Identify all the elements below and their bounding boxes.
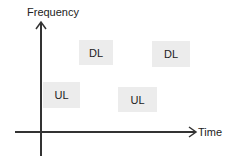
dl-block: DL bbox=[79, 40, 113, 65]
arrow-up-icon bbox=[35, 20, 47, 30]
time-axis bbox=[15, 131, 195, 133]
dl-block: DL bbox=[152, 41, 190, 67]
block-label: UL bbox=[54, 89, 68, 101]
frequency-axis bbox=[40, 22, 42, 156]
block-label: DL bbox=[164, 48, 178, 60]
block-label: DL bbox=[89, 47, 103, 59]
ul-block: UL bbox=[118, 87, 157, 112]
arrow-right-icon bbox=[188, 126, 198, 138]
time-axis-label: Time bbox=[198, 126, 222, 138]
block-label: UL bbox=[130, 94, 144, 106]
frequency-axis-label: Frequency bbox=[27, 6, 79, 18]
ul-block: UL bbox=[43, 82, 80, 108]
